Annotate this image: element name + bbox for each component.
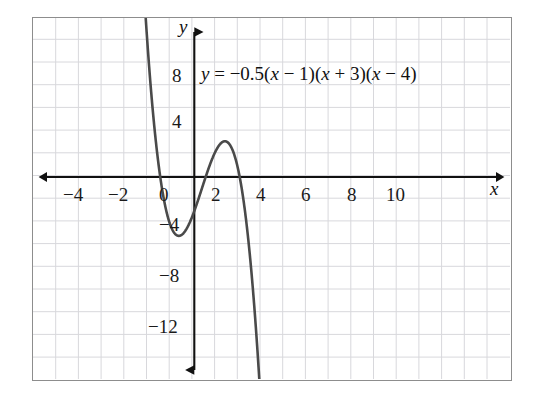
x-tick-label: 4 — [256, 184, 266, 206]
equation-var-2: x — [321, 63, 329, 84]
equation-eq: = — [209, 63, 229, 84]
x-tick-label: 6 — [301, 184, 311, 206]
x-tick-label: 8 — [347, 184, 357, 206]
equation-var-3: x — [372, 63, 380, 84]
equation-factor-2: + 3)( — [330, 63, 372, 84]
equation-factor-3: − 4) — [381, 63, 417, 84]
y-tick-label: 8 — [172, 65, 182, 87]
y-axis-label: y — [179, 16, 187, 38]
x-tick-label: −2 — [108, 184, 128, 206]
x-tick-label: 0 — [159, 184, 169, 206]
y-tick-label: −8 — [159, 265, 179, 287]
equation-factor-1: − 1)( — [279, 63, 321, 84]
x-tick-label: 10 — [386, 184, 405, 206]
y-tick-label: −4 — [159, 214, 179, 236]
x-tick-label: −4 — [63, 184, 83, 206]
plot-frame: −4 −2 0 2 4 6 8 10 8 4 −4 −8 −12 y x y =… — [32, 17, 512, 381]
equation-annotation: y = −0.5(x − 1)(x + 3)(x − 4) — [201, 63, 417, 85]
x-axis-label: x — [490, 178, 498, 200]
y-tick-label: −12 — [148, 316, 178, 338]
x-tick-label: 2 — [211, 184, 221, 206]
y-tick-label: 4 — [172, 111, 182, 133]
equation-coefficient: −0.5( — [230, 63, 271, 84]
equation-var-1: x — [270, 63, 278, 84]
